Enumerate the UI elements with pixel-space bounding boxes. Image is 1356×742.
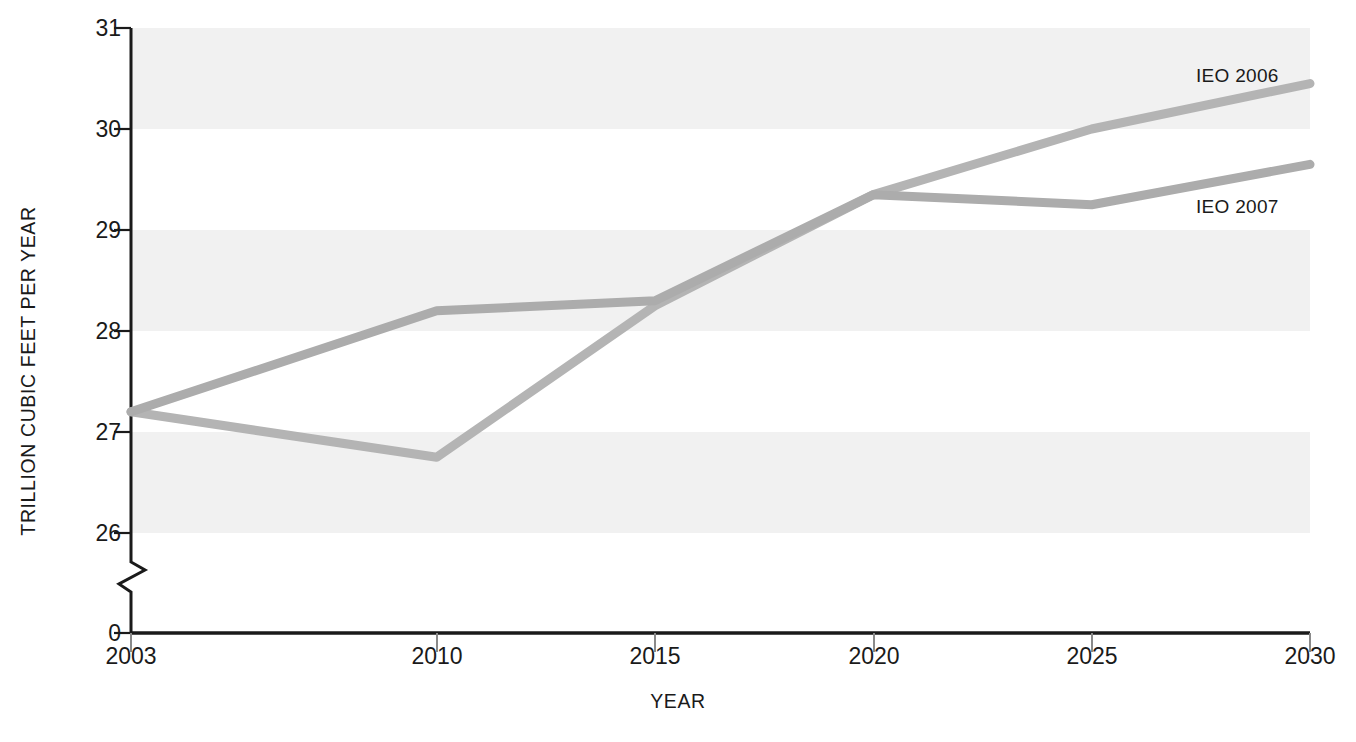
y-tick-label-26: 26	[95, 522, 121, 545]
y-tick-label-27: 27	[95, 421, 121, 444]
series-label-ieo-2007: IEO 2007	[1196, 197, 1279, 216]
series-line-ieo-2007	[131, 164, 1310, 411]
chart-container: 31 30 29 28 27 26 0 2003 2010 2015 2020 …	[0, 0, 1356, 742]
x-tick-label-2025: 2025	[1066, 645, 1117, 668]
x-axis-title: YEAR	[0, 690, 1356, 713]
y-tick-label-30: 30	[95, 118, 121, 141]
y-tick-label-31: 31	[95, 17, 121, 40]
y-tick-label-28: 28	[95, 320, 121, 343]
x-tick-label-2030: 2030	[1284, 645, 1335, 668]
y-tick-label-29: 29	[95, 219, 121, 242]
x-tick-marks	[131, 633, 1310, 652]
x-tick-label-2010: 2010	[411, 645, 462, 668]
y-tick-label-0: 0	[108, 622, 121, 645]
chart-svg	[0, 0, 1356, 742]
x-tick-label-2003: 2003	[105, 645, 156, 668]
y-axis-break-icon	[119, 533, 145, 633]
x-tick-label-2020: 2020	[848, 645, 899, 668]
series-label-ieo-2006: IEO 2006	[1196, 66, 1279, 85]
x-tick-label-2015: 2015	[629, 645, 680, 668]
